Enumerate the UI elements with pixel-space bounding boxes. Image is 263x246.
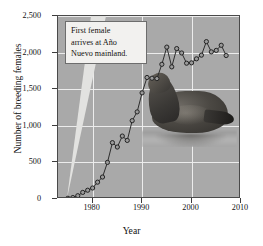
data-point-marker xyxy=(184,61,188,65)
data-point-marker xyxy=(175,46,179,50)
data-point-marker xyxy=(95,180,99,184)
y-axis-title: Number of breeding females xyxy=(12,14,23,184)
y-tick-label: 500 xyxy=(29,157,41,166)
data-point-marker xyxy=(135,110,139,114)
y-tick-label: 1,500 xyxy=(23,84,41,93)
x-tick-label: 2010 xyxy=(232,203,248,212)
data-point-marker xyxy=(76,194,80,198)
callout-line-2: arrives at Año xyxy=(71,37,142,49)
data-point-marker xyxy=(66,196,70,198)
data-point-marker xyxy=(224,53,228,57)
x-tick-mark xyxy=(92,198,93,203)
data-point-marker xyxy=(140,91,144,95)
x-tick-label: 1990 xyxy=(133,203,149,212)
first-female-callout: First female arrives at Año Nuevo mainla… xyxy=(65,21,147,64)
y-tick-label: 2,500 xyxy=(23,11,41,20)
y-tick-label: 2,000 xyxy=(23,47,41,56)
data-point-marker xyxy=(115,145,119,149)
chart-figure: 05001,0001,5002,0002,500 First female ar… xyxy=(0,0,263,246)
data-point-marker xyxy=(81,190,85,194)
x-tick-label: 2000 xyxy=(182,203,198,212)
x-axis-title: Year xyxy=(0,225,263,236)
data-point-marker xyxy=(199,53,203,57)
data-point-marker xyxy=(91,186,95,190)
y-tick-label: 0 xyxy=(37,194,41,203)
data-point-marker xyxy=(86,188,90,192)
data-point-marker xyxy=(155,76,159,80)
x-tick-mark xyxy=(191,198,192,203)
data-point-marker xyxy=(219,43,223,47)
callout-line-1: First female xyxy=(71,25,142,37)
data-point-marker xyxy=(130,119,134,123)
data-point-marker xyxy=(100,175,104,179)
y-axis-ticks: 05001,0001,5002,0002,500 xyxy=(0,15,51,198)
x-tick-mark xyxy=(141,198,142,203)
data-point-marker xyxy=(214,48,218,52)
y-tick-label: 1,000 xyxy=(23,120,41,129)
callout-line-3: Nuevo mainland. xyxy=(71,48,142,60)
data-point-marker xyxy=(189,61,193,65)
data-point-marker xyxy=(160,62,164,66)
data-point-marker xyxy=(209,50,213,54)
data-point-marker xyxy=(145,75,149,79)
data-point-marker xyxy=(180,51,184,55)
x-axis-ticks: 1980199020002010 xyxy=(57,203,240,217)
data-point-marker xyxy=(170,65,174,69)
x-tick-label: 1980 xyxy=(83,203,99,212)
data-point-marker xyxy=(125,138,129,142)
data-point-marker xyxy=(71,195,75,198)
data-point-marker xyxy=(120,134,124,138)
data-point-marker xyxy=(150,76,154,80)
data-point-marker xyxy=(110,141,114,145)
data-point-marker xyxy=(204,40,208,44)
x-tick-mark xyxy=(240,198,241,203)
data-point-marker xyxy=(165,45,169,49)
y-tick-mark xyxy=(52,198,57,199)
data-point-marker xyxy=(194,57,198,61)
data-point-marker xyxy=(105,160,109,164)
